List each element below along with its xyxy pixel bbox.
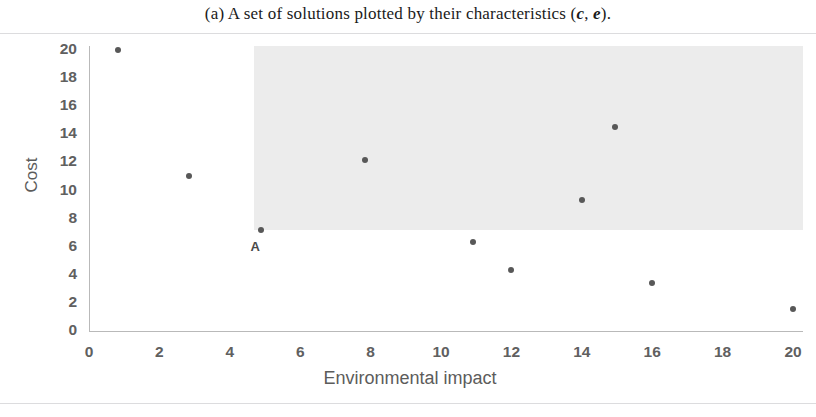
x-tick-label-8: 8 — [354, 343, 388, 361]
data-point-4[interactable] — [470, 239, 476, 245]
x-tick-label-14: 14 — [565, 343, 599, 361]
y-tick-label-8: 8 — [43, 209, 77, 227]
data-point-0[interactable] — [115, 47, 121, 53]
data-point-3[interactable] — [362, 157, 368, 163]
x-axis-title: Environmental impact — [150, 368, 670, 389]
data-point-5[interactable] — [508, 267, 514, 273]
x-axis-line — [89, 331, 803, 332]
x-tick-label-16: 16 — [635, 343, 669, 361]
y-axis-line — [89, 46, 90, 332]
data-point-1[interactable] — [186, 173, 192, 179]
x-tick-label-4: 4 — [213, 343, 247, 361]
plot-canvas: 02468101214161820 02468101214161820 A — [0, 33, 816, 417]
scatter-chart: 02468101214161820 02468101214161820 A Co… — [0, 33, 816, 417]
x-tick-label-20: 20 — [776, 343, 810, 361]
y-tick-label-20: 20 — [43, 40, 77, 58]
x-tick-label-12: 12 — [494, 343, 528, 361]
x-tick-label-10: 10 — [424, 343, 458, 361]
x-tick-label-6: 6 — [283, 343, 317, 361]
y-tick-label-6: 6 — [43, 237, 77, 255]
x-tick-label-18: 18 — [706, 343, 740, 361]
data-point-A[interactable] — [258, 227, 264, 233]
y-tick-label-0: 0 — [43, 321, 77, 339]
y-tick-label-18: 18 — [43, 68, 77, 86]
caption-variable-e: e — [593, 4, 601, 23]
data-point-label-A: A — [250, 239, 259, 254]
caption-prefix: (a) A set of solutions plotted by their … — [205, 4, 577, 23]
x-tick-label-2: 2 — [142, 343, 176, 361]
data-point-9[interactable] — [790, 306, 796, 312]
y-tick-label-12: 12 — [43, 152, 77, 170]
y-tick-label-16: 16 — [43, 96, 77, 114]
y-axis-title: Cost — [22, 135, 42, 215]
y-tick-label-14: 14 — [43, 124, 77, 142]
figure-caption: (a) A set of solutions plotted by their … — [0, 4, 816, 24]
y-tick-label-2: 2 — [43, 293, 77, 311]
data-point-8[interactable] — [649, 280, 655, 286]
caption-separator: , — [584, 4, 593, 23]
y-tick-label-4: 4 — [43, 265, 77, 283]
y-tick-label-10: 10 — [43, 181, 77, 199]
x-tick-label-0: 0 — [72, 343, 106, 361]
dominated-region-rectangle — [254, 46, 803, 230]
caption-suffix: ). — [601, 4, 611, 23]
